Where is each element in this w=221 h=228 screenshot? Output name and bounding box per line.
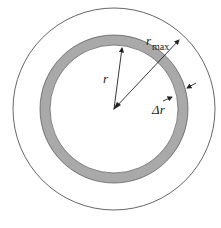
delta-r-label: Δr — [151, 102, 166, 117]
radial-shell-diagram: r r max Δr — [0, 0, 221, 228]
r-arrow — [114, 48, 122, 109]
rmax-subscript: max — [152, 41, 169, 52]
delta-r-arrow-inner — [163, 97, 172, 101]
r-label: r — [103, 71, 109, 86]
delta-r-arrow-outer — [187, 83, 196, 88]
